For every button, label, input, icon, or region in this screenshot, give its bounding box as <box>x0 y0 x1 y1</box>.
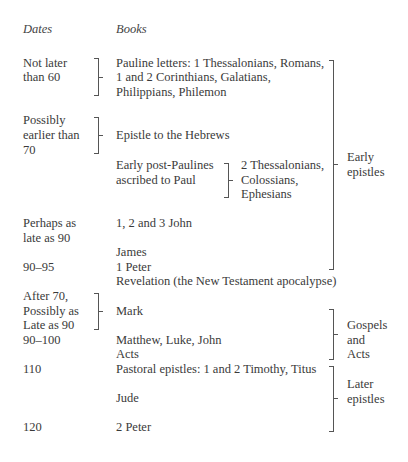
group-line: Acts <box>347 347 370 362</box>
date-line: late as 90 <box>23 231 70 246</box>
group-line: epistles <box>347 392 385 407</box>
book-pastoral-epistles: Pastoral epistles: 1 and 2 Timothy, Titu… <box>116 362 316 377</box>
book-line: Early post-Paulines <box>116 158 214 173</box>
group-line: epistles <box>347 165 385 180</box>
date-line: Not later <box>23 56 67 71</box>
date-line: earlier than <box>23 128 80 143</box>
book-line: 2 Thessalonians, <box>241 158 324 173</box>
book-1-peter: 1 Peter <box>116 260 151 275</box>
book-2-peter: 2 Peter <box>116 420 151 435</box>
bracket-tick <box>334 398 338 399</box>
date-120: 120 <box>23 420 42 435</box>
book-jude: Jude <box>116 391 139 406</box>
bracket-tick <box>99 311 103 312</box>
date-line: After 70, <box>23 289 68 304</box>
book-gospels: Matthew, Luke, John <box>116 333 221 348</box>
bracket-later-epistles <box>329 366 334 432</box>
date-line: Late as 90 <box>23 318 74 333</box>
date-110: 110 <box>23 362 41 377</box>
bracket-tick <box>229 180 233 181</box>
book-revelation: Revelation (the New Testament apocalypse… <box>116 274 336 289</box>
bracket-early-epistles <box>329 60 334 270</box>
date-line: Possibly <box>23 113 65 128</box>
group-line: and <box>347 333 365 348</box>
bracket-tick <box>99 135 103 136</box>
dates-column-header: Dates <box>23 22 52 37</box>
book-line: ascribed to Paul <box>116 173 196 188</box>
book-line: Ephesians <box>241 187 292 202</box>
date-90-95: 90–95 <box>23 260 54 275</box>
book-line: Philippians, Philemon <box>116 85 226 100</box>
date-line: Perhaps as <box>23 216 76 231</box>
book-line: Colossians, <box>241 173 298 188</box>
books-column-header: Books <box>116 22 147 37</box>
book-john-letters: 1, 2 and 3 John <box>116 216 192 231</box>
bracket-tick <box>99 77 103 78</box>
group-line: Early <box>347 150 374 165</box>
book-hebrews: Epistle to the Hebrews <box>116 128 230 143</box>
book-line: Pauline letters: 1 Thessalonians, Romans… <box>116 56 324 71</box>
book-acts: Acts <box>116 347 139 362</box>
book-line: 1 and 2 Corinthians, Galatians, <box>116 70 271 85</box>
book-james: James <box>116 245 147 260</box>
book-mark: Mark <box>116 304 143 319</box>
bracket-tick <box>334 164 338 165</box>
date-line: than 60 <box>23 70 60 85</box>
bracket-tick <box>334 334 338 335</box>
date-line: 70 <box>23 143 36 158</box>
group-line: Later <box>347 377 373 392</box>
group-line: Gospels <box>347 318 387 333</box>
date-line: Possibly as <box>23 304 79 319</box>
date-90-100: 90–100 <box>23 333 61 348</box>
